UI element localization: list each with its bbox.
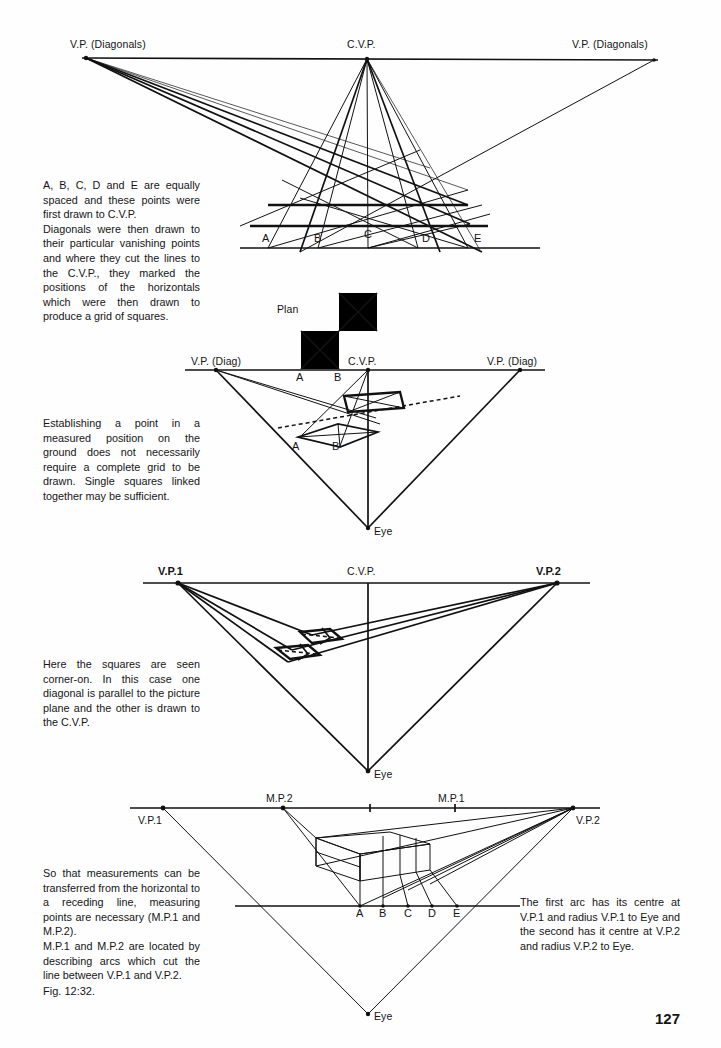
fig1-point-d: D: [422, 232, 430, 244]
cvp-dot-2: [366, 368, 370, 372]
vp2-to-box-top-4: [316, 808, 573, 838]
vp2-band-bot-3: [288, 583, 557, 662]
fig2-plan-point-b: B: [334, 371, 341, 383]
fig2-vp-right-label: V.P. (Diag): [487, 355, 537, 367]
ray-e-up-4: [430, 870, 457, 906]
figure-2-single-squares: [185, 293, 545, 530]
corner-square-upper: [300, 629, 342, 643]
plan-square-lower: [301, 331, 339, 369]
fig1-cvp-label: C.V.P.: [347, 38, 376, 50]
fig1-point-e: E: [474, 232, 481, 244]
fig2-caption-p1: Establishing a point in a measured posit…: [43, 416, 200, 504]
plan-square-upper: [339, 293, 377, 331]
corner-square-lower-diag: [278, 650, 316, 654]
textbook-page: V.P. (Diagonals) C.V.P. V.P. (Diagonals)…: [0, 0, 721, 1048]
cvp-ray-left2-2: [340, 370, 368, 446]
construction-dashed-2: [278, 396, 460, 428]
fig4-vp1-label: V.P.1: [138, 814, 162, 826]
vp-left-dot-1: [84, 56, 88, 60]
diag-asc-3: [240, 150, 420, 226]
plan-square-upper-diag2: [339, 293, 377, 331]
fig4-point-b: B: [379, 907, 386, 919]
vp2-to-box-bottom-4: [316, 808, 573, 866]
vp1-band-top-3: [178, 583, 312, 635]
cvp-to-c-1: [367, 59, 368, 248]
fig1-caption-p1: A, B, C, D and E are equally spaced and …: [43, 178, 200, 222]
fig4-vp2-label: V.P.2: [576, 814, 600, 826]
vp2-to-a-4: [360, 808, 573, 906]
vp2-band-mid-3: [292, 583, 557, 650]
fig1-vp-left-label: V.P. (Diagonals): [70, 38, 146, 50]
fig2-persp-point-b: B: [332, 440, 339, 452]
eye-dot-3: [366, 769, 371, 774]
fig4-caption-right-p1: The first arc has its centre at V.P.1 an…: [520, 895, 680, 953]
diag-desc-3: [368, 224, 470, 248]
vpr-to-eye-2: [368, 370, 520, 528]
vp1-band-mid-3: [178, 583, 292, 650]
page-number: 127: [655, 1010, 680, 1027]
fig2-plan-label: Plan: [277, 303, 298, 315]
mp2-measure-line-4: [283, 808, 360, 906]
fig4-point-d: D: [428, 907, 436, 919]
vp-right-dot-2: [518, 368, 522, 372]
figure-caption: Fig. 12:32.: [43, 985, 95, 997]
ray-c-up-4: [400, 875, 408, 906]
fig4-point-a: A: [356, 907, 363, 919]
persp-square-lower-diag1: [298, 432, 378, 437]
fig4-point-e: E: [453, 907, 460, 919]
fig3-caption-p1: Here the squares are seen corner-on. In …: [43, 657, 200, 730]
fig3-cvp-label: C.V.P.: [347, 565, 376, 577]
fig4-caption-right: The first arc has its centre at V.P.1 an…: [520, 895, 680, 953]
fig2-persp-point-a: A: [292, 440, 299, 452]
diag-asc-2: [318, 205, 482, 248]
fig2-caption: Establishing a point in a measured posit…: [43, 416, 200, 504]
fig1-caption: A, B, C, D and E are equally spaced and …: [43, 178, 200, 324]
fig2-vp-left-label: V.P. (Diag): [191, 355, 241, 367]
vpr-diag-1: [300, 60, 654, 252]
cvp-to-b-1: [318, 59, 367, 248]
cvp-to-e-1: [367, 59, 468, 248]
cvp-extra-1: [367, 59, 480, 250]
fig4-mp2-label: M.P.2: [266, 792, 293, 804]
plan-square-lower-diag1: [301, 331, 339, 369]
corner-square-lower-arrow: [298, 644, 308, 660]
fig1-caption-p2: Diagonals were then drawn to their parti…: [43, 222, 200, 324]
fig2-cvp-label: C.V.P.: [348, 355, 377, 367]
fig4-eye-label: Eye: [374, 1010, 392, 1022]
persp-square-upper-diag1: [344, 396, 404, 408]
vp1-to-eye-3: [178, 583, 368, 771]
vp1-dot-3: [175, 580, 180, 585]
fig1-point-c: C: [364, 228, 372, 240]
corner-square-upper-arrow: [320, 628, 330, 644]
persp-square-upper-diag2: [348, 392, 400, 412]
plan-square-lower-diag2: [301, 331, 339, 369]
fig4-point-c: C: [404, 907, 412, 919]
corner-square-lower: [276, 645, 320, 659]
eye-dot-2: [366, 526, 370, 530]
vp1-band-bot-3: [178, 583, 288, 662]
corner-square-upper-diag: [302, 634, 338, 638]
box-left-midline: [316, 852, 360, 867]
fig4-caption-p2: M.P.1 and M.P.2 are located by describin…: [43, 939, 200, 983]
fig4-caption-p1: So that measurements can be transferred …: [43, 866, 200, 939]
aux-edge-left: [300, 59, 367, 252]
fig1-point-a: A: [262, 232, 269, 244]
cvp-dot-1: [365, 57, 369, 61]
vp2-band-top-3: [312, 583, 557, 635]
persp-square-upper: [344, 392, 404, 412]
vp-left-dot-2: [214, 368, 218, 372]
fig2-eye-label: Eye: [374, 525, 392, 537]
fig3-eye-label: Eye: [374, 768, 392, 780]
cvp-to-d-1: [367, 59, 418, 248]
fig1-vp-right-label: V.P. (Diagonals): [572, 38, 648, 50]
box-top-face: [316, 832, 430, 854]
eye-dot-4: [366, 1012, 370, 1016]
vp2-to-eye-3: [368, 583, 557, 771]
fig2-plan-point-a: A: [296, 371, 303, 383]
vp2-dot-4: [571, 806, 576, 811]
plan-square-upper-diag1: [339, 293, 377, 331]
vp2-to-b-4: [383, 808, 573, 898]
fig3-vp1-label: V.P.1: [158, 565, 183, 577]
vp2-dot-3: [554, 580, 559, 585]
ray-d-up-4: [416, 872, 432, 906]
